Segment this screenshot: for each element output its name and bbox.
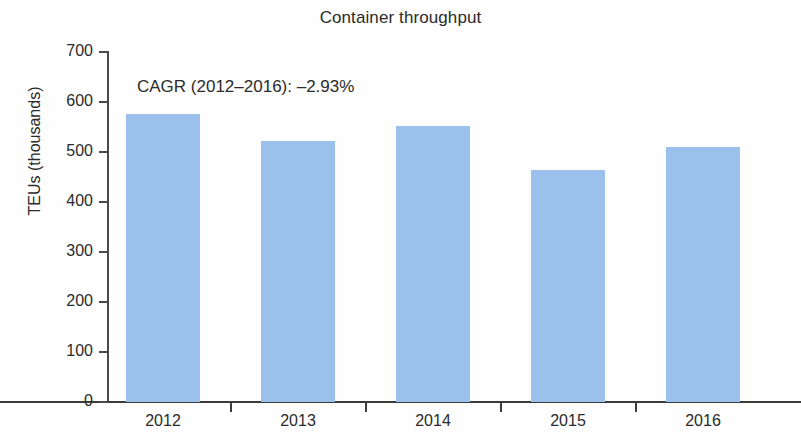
x-axis-tick (365, 402, 367, 412)
y-axis-tick-label: 300 (35, 243, 93, 259)
y-axis-tick-label: 0 (35, 393, 93, 409)
y-axis-tick-label-text: 200 (39, 293, 93, 309)
chart-title: Container throughput (0, 8, 801, 28)
x-axis-tick (230, 402, 232, 412)
bar-2016 (666, 147, 740, 402)
x-axis-tick-label: 2014 (373, 412, 493, 430)
y-axis-tick-label: 600 (35, 93, 93, 109)
x-axis-tick-label: 2013 (238, 412, 358, 430)
y-axis-tick (99, 301, 108, 303)
y-axis-tick-label: 400 (35, 193, 93, 209)
y-axis-tick-label: 500 (35, 143, 93, 159)
y-axis-tick-label: 100 (35, 343, 93, 359)
y-axis-tick-label-text: 0 (39, 393, 93, 409)
y-axis-tick (99, 401, 108, 403)
y-axis-tick (99, 151, 108, 153)
y-axis-tick (99, 101, 108, 103)
y-axis-tick (99, 251, 108, 253)
y-axis-tick-label: 700 (35, 43, 93, 59)
cagr-annotation: CAGR (2012–2016): –2.93% (137, 77, 354, 97)
y-axis-tick-label-text: 700 (39, 43, 93, 59)
bar-chart: Container throughput TEUs (thousands) CA… (0, 0, 801, 435)
bar-2012 (126, 114, 200, 402)
y-axis-tick (99, 51, 108, 53)
y-axis-tick-label-text: 400 (39, 193, 93, 209)
y-axis-tick-label-text: 300 (39, 243, 93, 259)
y-axis-tick-label-text: 600 (39, 93, 93, 109)
y-axis-tick-label-text: 100 (39, 343, 93, 359)
y-axis-tick-label-text: 500 (39, 143, 93, 159)
x-axis-tick-label: 2016 (643, 412, 763, 430)
x-axis-tick-label: 2015 (508, 412, 628, 430)
x-axis-tick (500, 402, 502, 412)
y-axis-tick (99, 201, 108, 203)
x-axis-tick-label: 2012 (103, 412, 223, 430)
bar-2013 (261, 141, 335, 402)
y-axis-tick-label: 200 (35, 293, 93, 309)
bar-2014 (396, 126, 470, 402)
y-axis-tick (99, 351, 108, 353)
x-axis-tick (635, 402, 637, 412)
bar-2015 (531, 170, 605, 402)
